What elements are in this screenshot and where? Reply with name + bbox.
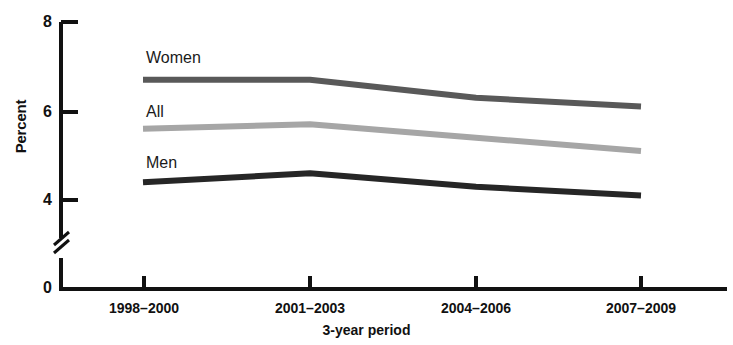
series-line-men (143, 173, 641, 195)
x-tick-label-1: 2001–2003 (275, 300, 345, 316)
x-tick-label-3: 2007–2009 (606, 300, 676, 316)
plot-area (0, 0, 733, 345)
series-label-men: Men (146, 155, 177, 171)
series-line-women (143, 80, 641, 107)
series-label-women: Women (146, 50, 201, 66)
x-tick-label-0: 1998–2000 (109, 300, 179, 316)
series-line-all (143, 124, 641, 151)
chart-figure: Percent 8 6 4 0 Women All Men 1998– (0, 0, 733, 345)
series-label-all: All (146, 104, 164, 120)
x-axis-title: 3-year period (0, 322, 733, 338)
x-tick-label-2: 2004–2006 (441, 300, 511, 316)
